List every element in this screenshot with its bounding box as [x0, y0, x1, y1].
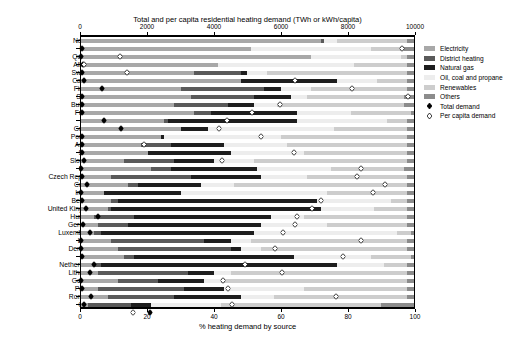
bar-segment-oil-coal-and-propane [261, 223, 328, 228]
bar-segment-oil-coal-and-propane [321, 207, 374, 212]
bar-segment-others [407, 191, 414, 196]
bar-row [81, 303, 414, 308]
bar-segment-others [407, 71, 414, 76]
bottom-axis-tick [281, 309, 282, 312]
bar-segment-district-heating [98, 271, 188, 276]
bar-segment-oil-coal-and-propane [257, 167, 330, 172]
top-axis-tick [147, 32, 148, 35]
bar-row [81, 263, 414, 268]
legend-label: Oil, coal and propane [440, 74, 503, 81]
legend-item-total-demand: Total demand [424, 102, 518, 112]
bar-segment-electricity [81, 263, 94, 268]
bar-segment-oil-coal-and-propane [214, 271, 231, 276]
stacked-bar [81, 159, 414, 164]
bar-segment-renewables [254, 159, 407, 164]
bar-segment-electricity [81, 47, 251, 52]
stacked-bar [81, 271, 414, 276]
bar-row [81, 47, 414, 52]
bar-segment-oil-coal-and-propane [241, 295, 274, 300]
bar-segment-natural-gas [101, 231, 254, 236]
bar-segment-natural-gas [174, 159, 214, 164]
bar-segment-oil-coal-and-propane [231, 151, 304, 156]
bar-segment-others [407, 287, 414, 292]
bar-row [81, 191, 414, 196]
bar-segment-electricity [81, 199, 111, 204]
bar-segment-others [404, 47, 414, 52]
bar-segment-electricity [81, 255, 124, 260]
bar-segment-district-heating [98, 287, 185, 292]
bar-segment-electricity [81, 39, 321, 44]
bottom-axis-tick-label: 80 [344, 313, 351, 320]
bar-segment-electricity [81, 279, 118, 284]
bar-segment-electricity [81, 295, 108, 300]
bar-segment-natural-gas [104, 191, 181, 196]
bottom-axis-tick [80, 309, 81, 312]
bar-row [81, 215, 414, 220]
bar-segment-oil-coal-and-propane [224, 143, 287, 148]
top-axis-tick-label: 2000 [140, 23, 154, 30]
bar-segment-others [407, 175, 414, 180]
bar-segment-oil-coal-and-propane [271, 215, 304, 220]
bar-segment-oil-coal-and-propane [151, 303, 221, 308]
bar-segment-renewables [251, 239, 408, 244]
top-axis-tick [281, 32, 282, 35]
bar-segment-oil-coal-and-propane [297, 111, 350, 116]
legend-item-renewables: Renewables [424, 82, 518, 92]
chart-figure: Total and per capita residential heating… [0, 0, 520, 340]
bar-segment-renewables [277, 103, 404, 108]
bar-segment-oil-coal-and-propane [261, 175, 308, 180]
bar-segment-electricity [81, 55, 311, 60]
bar-segment-district-heating [194, 111, 211, 116]
bar-segment-district-heating [128, 183, 138, 188]
bar-segment-renewables [234, 183, 407, 188]
bar-segment-oil-coal-and-propane [337, 79, 377, 84]
top-axis-tick-label: 8000 [341, 23, 355, 30]
bottom-axis-tick [147, 309, 148, 312]
bar-segment-district-heating [111, 239, 204, 244]
bar-segment-others [407, 151, 414, 156]
bar-segment-electricity [81, 223, 98, 228]
bar-row [81, 159, 414, 164]
legend-label: Electricity [440, 45, 468, 52]
legend-label: Natural gas [440, 64, 474, 71]
bar-segment-electricity [81, 287, 98, 292]
bar-segment-natural-gas [241, 79, 338, 84]
legend-item-electricity: Electricity [424, 44, 518, 54]
bar-segment-district-heating [118, 247, 231, 252]
bar-segment-renewables [304, 287, 407, 292]
bar-segment-others [411, 111, 414, 116]
bar-segment-renewables [327, 223, 407, 228]
chart-legend: ElectricityDistrict heatingNatural gasOi… [424, 44, 518, 121]
bar-segment-others [407, 183, 414, 188]
bar-segment-electricity [81, 135, 161, 140]
legend-label: Per capita demand [440, 112, 495, 119]
bar-segment-oil-coal-and-propane [241, 247, 261, 252]
bar-row [81, 199, 414, 204]
stacked-bar [81, 63, 414, 68]
bar-segment-natural-gas [171, 167, 258, 172]
stacked-bar [81, 71, 414, 76]
bar-segment-natural-gas [158, 279, 205, 284]
bottom-axis-tick [348, 309, 349, 312]
bar-segment-natural-gas [231, 247, 241, 252]
stacked-bar [81, 95, 414, 100]
bar-segment-renewables [391, 199, 408, 204]
bar-row [81, 63, 414, 68]
bar-segment-oil-coal-and-propane [337, 263, 384, 268]
bar-segment-electricity [81, 79, 241, 84]
top-axis-tick-label: 0 [78, 23, 82, 30]
legend-swatch [424, 56, 435, 61]
bar-segment-oil-coal-and-propane [311, 55, 401, 60]
bar-segment-others [407, 199, 414, 204]
filled-diamond-icon [424, 103, 435, 110]
bar-segment-district-heating [194, 71, 241, 76]
bar-segment-district-heating [141, 143, 171, 148]
bar-segment-district-heating [98, 223, 128, 228]
bar-segment-oil-coal-and-propane [214, 159, 254, 164]
bar-segment-natural-gas [181, 127, 208, 132]
top-axis-tick-label: 10000 [406, 23, 424, 30]
bar-segment-district-heating [94, 215, 134, 220]
bar-segment-natural-gas [128, 223, 261, 228]
bar-segment-oil-coal-and-propane [231, 239, 251, 244]
bar-segment-district-heating [111, 175, 191, 180]
